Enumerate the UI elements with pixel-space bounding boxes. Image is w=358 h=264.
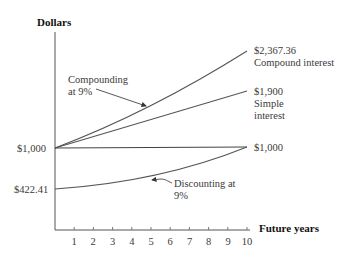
compounding-annotation-1: Compounding — [68, 74, 128, 85]
simple-name-label-1: Simple — [254, 98, 284, 109]
compound-name-label: Compound interest — [254, 57, 334, 68]
x-tick-8: 8 — [202, 236, 216, 247]
x-tick-1: 1 — [67, 236, 81, 247]
discounting-arrow-icon — [152, 179, 172, 183]
x-tick-2: 2 — [86, 236, 100, 247]
x-tick-5: 5 — [144, 236, 158, 247]
discounting-annotation-2: 9% — [174, 190, 188, 201]
x-tick-9: 9 — [221, 236, 235, 247]
x-tick-3: 3 — [106, 236, 120, 247]
y-axis-label: Dollars — [37, 17, 71, 28]
x-tick-6: 6 — [163, 236, 177, 247]
discounting-annotation-1: Discounting at — [174, 178, 236, 189]
compound-value-label: $2,367.36 — [254, 45, 296, 56]
x-tick-4: 4 — [125, 236, 139, 247]
compounding-annotation-2: at 9% — [68, 86, 92, 97]
y-label-1000: $1,000 — [17, 143, 46, 154]
simple-value-label: $1,900 — [254, 86, 283, 97]
x-tick-7: 7 — [183, 236, 197, 247]
x-tick-10: 10 — [240, 236, 254, 247]
x-axis-label: Future years — [259, 223, 319, 234]
simple-name-label-2: interest — [254, 110, 285, 121]
compounding-arrow-icon — [96, 89, 146, 106]
constant-value-label: $1,000 — [254, 142, 283, 153]
constant-line — [55, 147, 247, 148]
simple-interest-line — [55, 91, 247, 148]
y-label-422: $422.41 — [14, 184, 48, 195]
